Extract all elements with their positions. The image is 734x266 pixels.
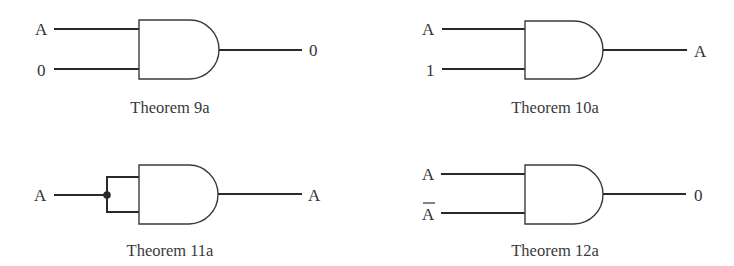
input-label-0: 0 [37, 61, 46, 80]
junction-dot-icon [103, 191, 111, 199]
panel-theorem-10a: A 1 A Theorem 10a [422, 20, 707, 117]
panel-theorem-9a: A 0 0 Theorem 9a [35, 20, 318, 117]
caption-theorem-9a: Theorem 9a [130, 98, 210, 117]
caption-theorem-12a: Theorem 12a [511, 241, 599, 260]
input-label-a: A [34, 186, 47, 205]
input-label-a-bar: A [422, 205, 435, 224]
output-label: A [694, 42, 707, 61]
and-gate-icon [525, 21, 603, 79]
theorem-diagram: A 0 0 Theorem 9a A 1 A Theorem 10a A A T… [0, 0, 734, 266]
caption-theorem-10a: Theorem 10a [511, 98, 599, 117]
panel-theorem-12a: A A 0 Theorem 12a [422, 165, 703, 260]
input-label-1: 1 [426, 61, 435, 80]
output-label: A [308, 186, 321, 205]
and-gate-icon [139, 20, 219, 79]
panel-theorem-11a: A A Theorem 11a [34, 165, 321, 260]
and-gate-icon [525, 165, 603, 224]
and-gate-icon [139, 165, 218, 224]
output-label: 0 [694, 186, 703, 205]
input-label-a: A [422, 20, 435, 39]
caption-theorem-11a: Theorem 11a [127, 241, 215, 260]
input-label-a: A [422, 165, 435, 184]
output-label: 0 [309, 41, 318, 60]
tied-input-wire [107, 177, 139, 212]
input-label-a: A [35, 20, 48, 39]
